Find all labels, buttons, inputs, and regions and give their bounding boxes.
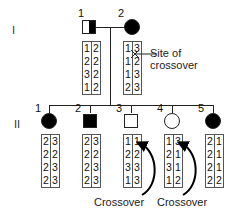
allele: 2	[93, 68, 99, 81]
individual-number-II-2: 2	[75, 103, 81, 114]
drop-line-II-5	[213, 105, 214, 113]
allele: 3	[93, 135, 99, 148]
allele: 1	[84, 42, 90, 55]
allele: 2	[93, 55, 99, 68]
allele: 3	[93, 161, 99, 174]
generation-label-I: I	[12, 24, 15, 36]
haplotype-box-II-1: 2 2 2 2 3 2 3 3	[41, 134, 60, 188]
allele: 3	[52, 161, 58, 174]
allele: 1	[84, 81, 90, 94]
allele: 2	[93, 42, 99, 55]
allele: 3	[52, 135, 58, 148]
allele: 2	[43, 148, 49, 161]
male-symbol-unaffected-II-3	[124, 114, 138, 128]
annotation-line: Site of	[150, 47, 198, 59]
allele: 3	[84, 68, 90, 81]
female-symbol-affected-II-1	[41, 113, 57, 129]
female-symbol-unaffected-II-4	[164, 113, 180, 129]
crossover-arrows-icon	[100, 140, 233, 200]
allele: 2	[43, 135, 49, 148]
allele: 2	[84, 148, 90, 161]
allele: 1	[125, 68, 131, 81]
haplotype-box-I-1: 1 2 3 1 2 2 2 2	[82, 41, 101, 95]
allele: 2	[84, 55, 90, 68]
individual-number-II-5: 5	[198, 103, 204, 114]
individual-number-I-2: 2	[118, 8, 124, 19]
allele: 3	[134, 81, 140, 94]
drop-line-II-1	[49, 105, 50, 113]
allele: 2	[93, 81, 99, 94]
site-of-crossover-label: Site of crossover	[150, 47, 198, 71]
generation-label-II: II	[14, 118, 20, 130]
individual-number-II-3: 3	[116, 103, 122, 114]
allele: 3	[93, 174, 99, 187]
allele: 2	[43, 174, 49, 187]
male-symbol-half-affected-I-1	[82, 20, 96, 34]
allele: 2	[84, 174, 90, 187]
drop-line-II-2	[90, 105, 91, 113]
drop-line-II-4	[172, 105, 173, 113]
crossover-label-1: Crossover	[94, 196, 144, 208]
allele: 3	[52, 174, 58, 187]
allele: 3	[134, 68, 140, 81]
allele: 2	[43, 161, 49, 174]
allele: 2	[84, 135, 90, 148]
annotation-line: crossover	[150, 59, 198, 71]
haplotype-box-II-2: 2 2 2 2 3 2 3 3	[82, 134, 101, 188]
allele: 2	[125, 81, 131, 94]
individual-number-II-4: 4	[157, 103, 163, 114]
female-symbol-affected-I-2	[124, 19, 140, 35]
individual-number-II-1: 1	[35, 103, 41, 114]
allele: 2	[52, 148, 58, 161]
allele: 2	[84, 161, 90, 174]
male-symbol-affected-II-2	[83, 114, 97, 128]
drop-line-II-3	[131, 105, 132, 113]
descent-line	[110, 27, 111, 105]
allele: 2	[93, 148, 99, 161]
individual-number-I-1: 1	[78, 8, 84, 19]
crossover-label-2: Crossover	[157, 196, 207, 208]
female-symbol-affected-II-5	[205, 113, 221, 129]
